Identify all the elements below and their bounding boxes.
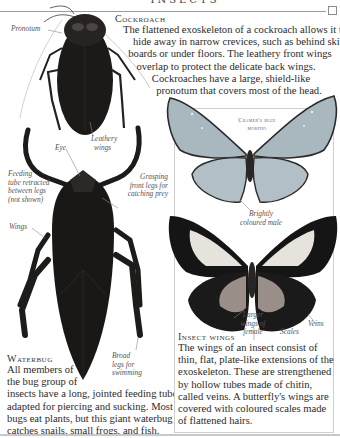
label-feeding-tube: Feeding tube retracted between legs (not… xyxy=(8,170,49,204)
waterbug-heading: Waterbug xyxy=(7,353,53,364)
label-larger-wings-female: Larger wings of female xyxy=(236,311,270,337)
waterbug-description: All members of the bug group of insects … xyxy=(7,364,177,437)
label-scales: Scales xyxy=(280,328,299,337)
insect-wings-heading: Insect wings xyxy=(178,331,235,342)
insect-wings-description: The wings of an insect consist of thin, … xyxy=(178,342,338,427)
label-veins: Veins xyxy=(308,320,324,329)
morpho-butterfly-illustration xyxy=(162,92,340,212)
encyclopedia-page: INSECTS Pronotum Leathery wings Cockroac… xyxy=(0,0,340,438)
label-wings: Wings xyxy=(9,223,27,232)
label-pronotum: Pronotum xyxy=(11,25,40,34)
cockroach-heading: Cockroach xyxy=(115,13,165,24)
label-eye: Eye xyxy=(55,144,66,153)
cockroach-description: The flattened exoskeleton of a cockroach… xyxy=(103,24,335,97)
bottom-rule xyxy=(0,434,340,436)
label-cramers-blue-morpho: Cramer's blue morpho xyxy=(226,116,288,131)
